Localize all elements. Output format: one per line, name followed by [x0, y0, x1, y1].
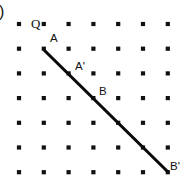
point-labels: QAA'BB' [31, 16, 180, 172]
lattice-dot [166, 145, 170, 149]
lattice-dot [42, 121, 46, 125]
lattice-dot [116, 22, 120, 26]
lattice-dot [166, 96, 170, 100]
lattice-dot [42, 170, 46, 174]
lattice-dot [141, 96, 145, 100]
lattice-dot [17, 71, 21, 75]
lattice-dot [141, 71, 145, 75]
lattice-dot [166, 22, 170, 26]
lattice-dot [42, 22, 46, 26]
figure-canvas: ) QAA'BB' [0, 0, 184, 181]
lattice-dot [91, 47, 95, 51]
point-label-Q: Q [31, 16, 41, 31]
lattice-dot [67, 22, 71, 26]
lattice-dot [17, 47, 21, 51]
lattice-dot [116, 47, 120, 51]
panel-label-group: ) [0, 3, 4, 20]
lattice-dot [67, 121, 71, 125]
lattice-dot [67, 96, 71, 100]
lattice-dot [67, 170, 71, 174]
lattice-dot [67, 145, 71, 149]
lattice-dot [141, 22, 145, 26]
lattice-dot [17, 121, 21, 125]
lattice-dot [116, 96, 120, 100]
lattice-dot [91, 170, 95, 174]
lattice-dot [42, 71, 46, 75]
lattice-dot [17, 170, 21, 174]
point-label-Aprime: A' [75, 60, 85, 72]
lattice-dot [91, 121, 95, 125]
lattice-dot [166, 71, 170, 75]
point-label-Bprime: B' [170, 160, 180, 172]
point-label-A: A [50, 32, 58, 44]
lattice-dot [67, 47, 71, 51]
lattice-dot [42, 145, 46, 149]
point-label-B: B [99, 85, 107, 97]
ray-group [44, 50, 168, 172]
lattice-dot [91, 145, 95, 149]
lattice-dot [116, 145, 120, 149]
dot-lattice-figure: ) QAA'BB' [0, 0, 184, 181]
lattice-dot [141, 47, 145, 51]
lattice-dot [116, 71, 120, 75]
lattice-dot [17, 96, 21, 100]
panel-label: ) [0, 3, 4, 20]
ray-A-to-Bprime [44, 50, 168, 172]
lattice-dot [141, 121, 145, 125]
lattice-dot [17, 22, 21, 26]
lattice-dot [17, 145, 21, 149]
lattice-dot [116, 170, 120, 174]
lattice-dot [141, 170, 145, 174]
lattice-dot [166, 121, 170, 125]
lattice-dot [91, 22, 95, 26]
lattice-dot [91, 71, 95, 75]
lattice-dot [42, 96, 46, 100]
lattice-dot [166, 47, 170, 51]
